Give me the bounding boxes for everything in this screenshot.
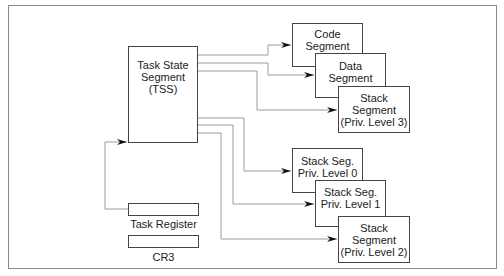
wire-tss-to-code (197, 45, 291, 55)
connector-lines (0, 0, 504, 276)
tss-box: Task State Segment (TSS) (128, 46, 198, 143)
tss-label-line-1: Task State (137, 59, 188, 71)
tss-label-line-3: (TSS) (149, 83, 178, 95)
stack3-line-1: Stack (360, 92, 388, 104)
data-segment-line-2: Segment (328, 72, 372, 84)
code-segment-line-1: Code (314, 28, 340, 40)
stack3-line-2: Segment (352, 104, 396, 116)
stack1-line-1: Stack Seg. (324, 186, 377, 198)
stack0-line-1: Stack Seg. (301, 155, 354, 167)
data-segment-line-1: Data (339, 60, 362, 72)
wire-taskreg-to-tss (105, 142, 128, 209)
tss-label-line-2: Segment (141, 71, 185, 83)
stack0-line-2: Priv. Level 0 (298, 167, 358, 179)
stack3-line-3: (Priv. Level 3) (340, 116, 407, 128)
stack2-line-1: Stack (360, 222, 388, 234)
stack2-line-3: (Priv. Level 2) (340, 246, 407, 258)
task-register-box (128, 203, 199, 216)
stack-segment-level2-box: Stack Segment (Priv. Level 2) (338, 216, 410, 263)
wire-tss-to-stack0 (197, 118, 291, 171)
code-segment-line-2: Segment (305, 40, 349, 52)
cr3-label: CR3 (128, 251, 199, 263)
stack-segment-level3-box: Stack Segment (Priv. Level 3) (338, 86, 410, 133)
task-register-label: Task Register (128, 218, 199, 230)
stack2-line-2: Segment (352, 234, 396, 246)
cr3-box (128, 235, 199, 248)
stack1-line-2: Priv. Level 1 (321, 198, 381, 210)
